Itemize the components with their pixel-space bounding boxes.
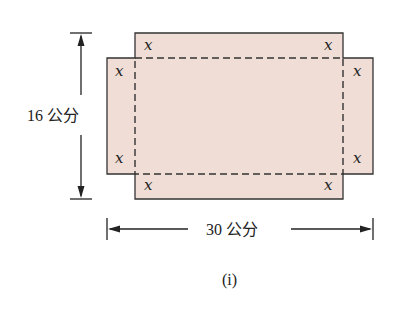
corner-label-bottom-right-side: x (353, 149, 362, 167)
corner-label-bottom-left-side: x (115, 149, 124, 167)
corner-label-bottom-left-bottom: x (144, 176, 153, 194)
corner-label-top-right-top: x (324, 36, 333, 54)
arrow-down-icon (78, 186, 85, 198)
width-label: 30 公分 (206, 221, 258, 238)
arrow-left-icon (108, 226, 120, 233)
arrow-up-icon (78, 34, 85, 46)
figure-caption: (i) (222, 271, 237, 289)
arrow-right-icon (360, 226, 372, 233)
box-net-diagram: x x x x x x x x 16 公分 30 公分 (i) (0, 0, 401, 312)
corner-label-top-left-side: x (115, 62, 124, 80)
corner-label-top-right-side: x (353, 62, 362, 80)
corner-label-bottom-right-bottom: x (324, 176, 333, 194)
height-label: 16 公分 (27, 107, 79, 124)
corner-label-top-left-top: x (144, 36, 153, 54)
